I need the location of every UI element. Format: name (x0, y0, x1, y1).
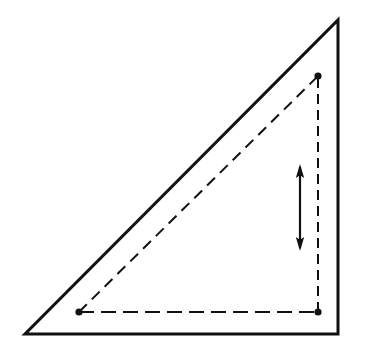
background-rect (0, 0, 368, 360)
point-lower-left (75, 308, 82, 315)
geometry-figure: Right triangle with inscribed dashed rec… (0, 0, 368, 360)
point-upper-right (314, 72, 321, 79)
point-lower-right (314, 308, 321, 315)
diagram-canvas: Right triangle with inscribed dashed rec… (0, 0, 368, 360)
